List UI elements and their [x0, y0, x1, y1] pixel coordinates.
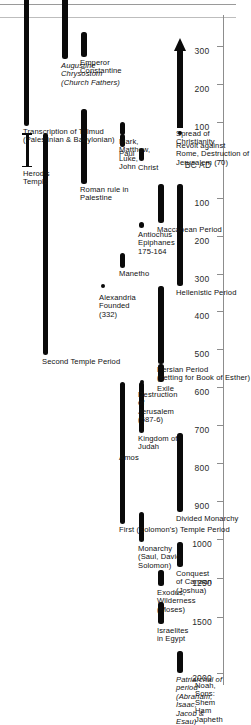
axis-tick-1250 [217, 578, 224, 579]
timeline-label-conquest: Conquest of Canaan (Joshua) [176, 569, 212, 594]
timeline-label-alexandria: Alexandria Founded (332) [100, 294, 137, 319]
timeline-bar-augustine [62, 0, 67, 59]
axis-tick-1500 [217, 617, 224, 618]
timeline-bar-patriarchal-of [177, 650, 182, 672]
timeline-label-first-solomon-s-temple-period: First (Solomon's) Temple Period [119, 526, 230, 534]
timeline-label-amos: Amos [119, 454, 139, 462]
axis-tick-label: 500 [195, 349, 210, 359]
timeline-label-herod-s: Herod's Temple [23, 169, 50, 186]
timeline-bar-persian-period [158, 286, 163, 364]
timeline-label-divided-monarchy: Divided Monarchy [176, 514, 238, 522]
timeline-label-persian-period: Persian Period (setting for Book of Esth… [157, 366, 250, 383]
timeline-label-maccabean-period: Maccabean Period [157, 225, 222, 233]
axis-tick-label: 200 [195, 83, 210, 93]
timeline-dot-destruction [140, 380, 144, 384]
axis-tick-label: 1000 [192, 539, 212, 549]
axis-tick-900 [217, 501, 224, 502]
axis-tick-1000 [217, 539, 224, 540]
timeline-bar-manetho [120, 252, 125, 267]
axis-tick-500 [217, 349, 224, 350]
timeline-label-augustine: Augustine Chrysostom (Church Fathers) [61, 61, 120, 86]
axis-tick-600 [217, 387, 224, 388]
axis-tick-700 [217, 425, 224, 426]
timeline-bar-roman-rule-in [81, 108, 86, 183]
timeline-bar-divided-monarchy [177, 432, 182, 512]
axis-tick-label: 800 [195, 463, 210, 473]
timeline-bar-antiochus [139, 222, 144, 228]
timeline-label-second-temple-period: Second Temple Period [42, 357, 120, 365]
timeline-label-mark: Mark, Matthew, Luke, John [119, 137, 150, 171]
axis-tick-800 [217, 463, 224, 464]
timeline-arrow-shaft-spread-of [177, 50, 183, 127]
axis-tick-400 [217, 311, 224, 312]
timeline-label-roman-rule-in: Roman rule in Palestine [80, 186, 129, 203]
axis-tick-200 [217, 235, 224, 236]
timeline-bar-maccabean-period [158, 183, 163, 222]
timeline-label-transcription-of-talmud: Transcription of Talmud (Palestinian & B… [23, 128, 115, 145]
timeline-bar-exodus [158, 570, 163, 586]
timeline-label-spread-of: Spread of Christianity [176, 129, 215, 146]
timeline-dot-alexandria [101, 283, 105, 287]
axis-tick-label: 400 [195, 311, 210, 321]
timeline-label-patriarchal-of: Patriarchal of period (Abraham, Isaac, J… [176, 675, 222, 725]
timeline-label-israelites: Israelites in Egypt [157, 626, 188, 643]
timeline-label-hellenistic-period: Hellenistic Period [176, 288, 236, 296]
axis-tick-label: 100 [195, 197, 210, 207]
axis-tick-label: 200 [195, 235, 210, 245]
timeline-label-exile: Exile [157, 384, 174, 392]
timeline-label-manetho: Manetho [119, 270, 149, 278]
timeline-bracket-cap-end [22, 165, 32, 167]
axis-tick-label: 300 [195, 46, 210, 56]
page-rule-top [0, 4, 236, 5]
axis-tick-label: 700 [195, 425, 210, 435]
axis-tick-label: 300 [195, 273, 210, 283]
rotated-chart-canvas: 2000150012501000900800700600500400300200… [12, 15, 224, 685]
timeline-bar-emperor [81, 32, 86, 57]
axis-tick-300 [217, 46, 224, 47]
axis-tick-label: 900 [195, 501, 210, 511]
axis-tick-300 [217, 273, 224, 274]
timeline-bar-second-temple-period [43, 133, 48, 355]
axis-tick-100 [217, 197, 224, 198]
axis-tick-2000 [217, 673, 224, 674]
timeline-label-kingdom-of: Kingdom of Judah [138, 435, 177, 452]
timeline-label-destruction: Destruction of Jerusalem (587-6) [138, 390, 178, 424]
timeline-plot-area: 2000150012501000900800700600500400300200… [12, 15, 224, 685]
timeline-bar-transcription-of-talmud [24, 0, 29, 125]
timeline-label-monarchy: Monarchy (Saul, David, Solomon) [138, 544, 183, 569]
axis-tick-label: 600 [195, 387, 210, 397]
axis-tick-label: 1500 [192, 617, 212, 627]
timeline-arrow-head-spread-of [174, 38, 186, 51]
axis-tick-200 [217, 83, 224, 84]
axis-tick-100 [217, 121, 224, 122]
timeline-bar-mark [120, 121, 125, 134]
